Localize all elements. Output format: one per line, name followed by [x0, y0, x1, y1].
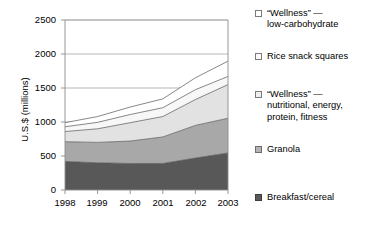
legend-label-granola: Granola: [267, 144, 300, 155]
chart-legend: “Wellness” — low-carbohydrate Rice snack…: [255, 0, 391, 225]
legend-label-wellness-nutritional: “Wellness” — nutritional, energy, protei…: [267, 89, 343, 123]
legend-label-wellness-low-carbohydrate: “Wellness” — low-carbohydrate: [267, 8, 338, 31]
legend-item-granola[interactable]: Granola: [255, 144, 300, 155]
stacked-areas: [65, 61, 228, 190]
legend-label-breakfast-cereal: Breakfast/cereal: [267, 192, 334, 203]
plot-area: [0, 0, 250, 225]
stacked-area-chart-figure: U.S.$ (millions) 2500 2000 1500 1000 500…: [0, 0, 391, 225]
legend-swatch-wellness-nutritional: [255, 91, 262, 98]
legend-swatch-granola: [255, 146, 262, 153]
legend-item-breakfast-cereal[interactable]: Breakfast/cereal: [255, 192, 334, 203]
legend-swatch-wellness-low-carbohydrate: [255, 10, 262, 17]
legend-label-rice-snack-squares: Rice snack squares: [267, 51, 348, 62]
legend-swatch-rice-snack-squares: [255, 53, 262, 60]
legend-swatch-breakfast-cereal: [255, 194, 262, 201]
legend-item-wellness-low-carbohydrate[interactable]: “Wellness” — low-carbohydrate: [255, 8, 338, 31]
legend-item-wellness-nutritional[interactable]: “Wellness” — nutritional, energy, protei…: [255, 89, 343, 123]
legend-item-rice-snack-squares[interactable]: Rice snack squares: [255, 51, 348, 62]
